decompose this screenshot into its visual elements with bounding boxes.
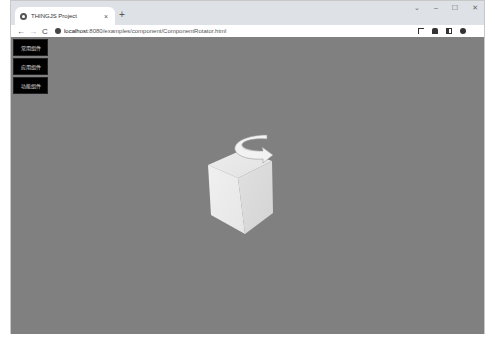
- application-components-button[interactable]: 应用组件: [13, 58, 48, 75]
- profile-icon[interactable]: [460, 28, 466, 34]
- new-tab-button[interactable]: +: [119, 9, 125, 20]
- address-bar[interactable]: localhost:8080/examples/component/Compon…: [55, 28, 418, 34]
- tab-title: THINGJS Project: [31, 13, 102, 19]
- menu-icon[interactable]: [474, 28, 476, 34]
- url-host: localhost: [64, 28, 88, 34]
- tab-strip: THINGJS Project × + ⌄ – ☐ ✕: [11, 1, 484, 25]
- browser-window: THINGJS Project × + ⌄ – ☐ ✕ ← → C localh…: [10, 0, 485, 334]
- browser-tab[interactable]: THINGJS Project ×: [15, 7, 115, 25]
- extensions-icon[interactable]: [432, 28, 438, 34]
- window-controls: ⌄ – ☐ ✕: [414, 4, 478, 12]
- close-window-button[interactable]: ✕: [472, 4, 478, 12]
- back-button[interactable]: ←: [15, 27, 27, 36]
- forward-button[interactable]: →: [27, 27, 39, 36]
- site-info-icon[interactable]: [55, 28, 61, 34]
- common-components-button[interactable]: 常用组件: [13, 39, 48, 56]
- toolbar-icons: [418, 28, 476, 34]
- maximize-button[interactable]: ☐: [452, 4, 458, 12]
- tab-search-button[interactable]: ⌄: [414, 4, 420, 12]
- browser-toolbar: ← → C localhost:8080/examples/component/…: [11, 25, 484, 37]
- function-components-button[interactable]: 功能组件: [13, 77, 48, 94]
- reload-button[interactable]: C: [39, 27, 51, 36]
- 3d-scene[interactable]: [11, 37, 484, 334]
- 3d-viewport[interactable]: 常用组件 应用组件 功能组件: [11, 37, 484, 334]
- component-button-panel: 常用组件 应用组件 功能组件: [13, 39, 48, 94]
- globe-icon: [20, 13, 27, 20]
- side-panel-icon[interactable]: [446, 28, 452, 34]
- screen-capture-icon[interactable]: [418, 28, 424, 34]
- url-path: :8080/examples/component/ComponentRotato…: [88, 28, 227, 34]
- tab-close-button[interactable]: ×: [102, 13, 110, 20]
- minimize-button[interactable]: –: [434, 4, 438, 12]
